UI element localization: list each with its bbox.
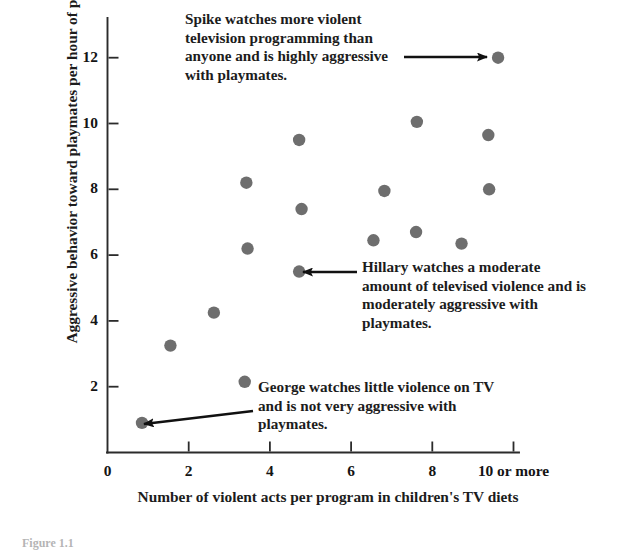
data-point	[411, 116, 423, 128]
data-point	[240, 177, 252, 189]
figure-caption: Figure 1.1	[22, 536, 74, 550]
data-point	[378, 185, 390, 197]
data-point	[239, 376, 251, 388]
y-axis-label-wrapper: Aggressive behavior toward playmates per…	[62, 0, 82, 352]
y-tick-label: 2	[62, 377, 98, 395]
data-point	[410, 226, 422, 238]
data-point	[455, 237, 467, 249]
scatter-plot-figure: 24681012 0246810 or more Spike watches m…	[0, 0, 620, 551]
data-points-group	[136, 52, 504, 430]
x-tick-label: 10 or more	[466, 462, 562, 480]
data-point	[208, 306, 220, 318]
y-axis-label: Aggressive behavior toward playmates per…	[62, 0, 82, 352]
annotation-arrows	[144, 57, 487, 424]
y-axis-ticks	[109, 58, 119, 387]
x-axis-label: Number of violent acts per program in ch…	[118, 487, 538, 506]
data-point	[367, 234, 379, 246]
data-point-spike	[492, 52, 504, 64]
annotation-george: George watches little violence on TV and…	[258, 378, 518, 434]
data-point	[483, 183, 495, 195]
x-axis-ticks	[189, 442, 514, 452]
data-point	[295, 203, 307, 215]
data-point	[293, 134, 305, 146]
annotation-spike: Spike watches more violent television pr…	[185, 10, 400, 84]
arrow-george	[144, 411, 253, 424]
data-point	[164, 339, 176, 351]
data-point	[241, 242, 253, 254]
data-point	[482, 129, 494, 141]
annotation-hillary: Hillary watches a moderate amount of tel…	[362, 258, 592, 332]
